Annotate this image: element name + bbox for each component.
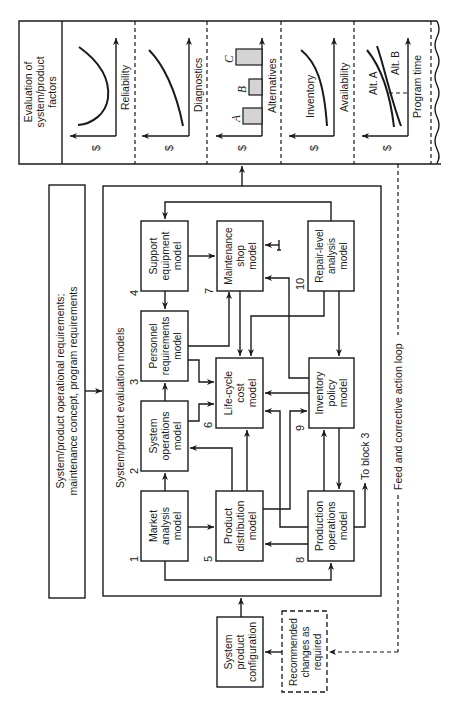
- axis-label-dollar: $: [381, 145, 393, 151]
- curve-label-inventory: Inventory: [304, 74, 316, 118]
- torn-edge: [435, 21, 439, 163]
- svg-text:maintenance concept, program r: maintenance concept, program requirement…: [67, 287, 79, 496]
- axis-label-alternatives: Alternatives: [266, 58, 278, 113]
- bar-a: [243, 108, 262, 124]
- chart-availability: Inventory Availability $: [289, 38, 350, 151]
- to-block-3-label: To block 3: [359, 433, 371, 480]
- axis-label-reliability: Reliability: [119, 64, 131, 110]
- model-number: 3: [128, 379, 140, 385]
- recommended-changes[interactable]: Recommended changes as required: [282, 611, 327, 692]
- svg-text:model: model: [338, 242, 349, 269]
- curve-label-alt-b: Alt. B: [390, 51, 401, 75]
- svg-text:required: required: [312, 634, 323, 671]
- axis-label-dollar: $: [308, 145, 320, 151]
- model-number: 10: [294, 278, 306, 290]
- svg-text:C: C: [223, 55, 235, 63]
- model-number: 5: [202, 556, 214, 562]
- svg-text:model: model: [337, 512, 349, 541]
- model-number: 9: [294, 425, 306, 431]
- svg-text:Support: Support: [147, 238, 159, 275]
- svg-text:operations: operations: [325, 501, 337, 550]
- svg-text:model: model: [171, 512, 183, 541]
- chart-diagnostics: Diagnostics $: [142, 38, 204, 151]
- svg-text:System/product operational req: System/product operational requirements;: [54, 294, 66, 489]
- bar-c: [236, 49, 262, 65]
- svg-text:Evaluation of: Evaluation of: [22, 62, 34, 123]
- curve-label-alt-a: Alt. A: [368, 71, 379, 95]
- svg-text:A: A: [230, 114, 242, 123]
- svg-text:model: model: [171, 242, 183, 271]
- svg-text:Personnel: Personnel: [148, 323, 159, 368]
- svg-text:distribution: distribution: [234, 500, 246, 551]
- chart-program-time: Alt. A Alt. B Program time $: [362, 38, 423, 151]
- svg-text:product: product: [234, 634, 246, 669]
- axis-label-availability: Availability: [338, 62, 350, 112]
- svg-text:configuration: configuration: [246, 622, 258, 682]
- svg-text:Market: Market: [147, 510, 159, 542]
- svg-text:model: model: [247, 242, 258, 269]
- life-cycle-evaluation-diagram: Evaluation of system/product factors Rel…: [0, 0, 459, 701]
- system-product-configuration[interactable]: System product configuration: [217, 617, 263, 687]
- svg-text:operations: operations: [159, 411, 171, 460]
- svg-text:policy: policy: [325, 379, 337, 407]
- svg-text:Life-cycle: Life-cycle: [222, 371, 234, 416]
- axis-label-dollar: $: [90, 145, 102, 151]
- model-number: 2: [128, 468, 140, 474]
- svg-text:model: model: [172, 332, 183, 359]
- chart-alternatives: A B C Alternatives $: [216, 38, 278, 151]
- bar-b: [249, 79, 262, 95]
- models-frame-title: System/product evaluation models: [114, 328, 126, 489]
- feedback-loop-label: Feed and corrective action loop: [392, 343, 404, 490]
- model-number: 7: [203, 288, 215, 294]
- requirements-box: System/product operational requirements;…: [49, 185, 85, 598]
- axis-label-dollar: $: [163, 145, 175, 151]
- svg-text:changes as: changes as: [300, 626, 311, 677]
- axis-label-diagnostics: Diagnostics: [192, 58, 204, 112]
- svg-text:equipment: equipment: [159, 231, 171, 280]
- model-number: 6: [202, 422, 214, 428]
- svg-text:Recommended: Recommended: [288, 618, 299, 686]
- svg-text:system/product: system/product: [34, 56, 46, 127]
- svg-text:B: B: [236, 86, 248, 93]
- svg-text:cost: cost: [234, 383, 246, 402]
- svg-text:requirements: requirements: [160, 317, 171, 375]
- chart-reliability: Reliability $: [70, 38, 131, 151]
- svg-text:Product: Product: [222, 508, 234, 544]
- svg-text:Maintenance: Maintenance: [223, 227, 234, 285]
- svg-text:Production: Production: [313, 501, 325, 551]
- axis-label-dollar: $: [236, 145, 248, 151]
- svg-text:shop: shop: [235, 245, 246, 267]
- svg-text:model: model: [337, 379, 349, 408]
- svg-text:System: System: [222, 634, 234, 669]
- svg-text:System: System: [147, 418, 159, 453]
- model-number: 4: [128, 290, 140, 296]
- svg-text:model: model: [171, 422, 183, 451]
- svg-text:Repair-level: Repair-level: [314, 229, 325, 282]
- svg-text:model: model: [246, 379, 258, 408]
- axis-label-program-time: Program time: [411, 55, 423, 118]
- svg-text:Inventory: Inventory: [313, 371, 325, 415]
- svg-text:model: model: [246, 512, 258, 541]
- evaluation-title: Evaluation of system/product factors: [22, 56, 58, 127]
- model-number: 8: [294, 557, 306, 563]
- svg-text:analysis: analysis: [159, 507, 171, 545]
- model-number: 1: [128, 556, 140, 562]
- svg-text:factors: factors: [46, 76, 58, 108]
- evaluation-panel: Evaluation of system/product factors Rel…: [19, 21, 441, 164]
- svg-text:analysis: analysis: [326, 238, 337, 274]
